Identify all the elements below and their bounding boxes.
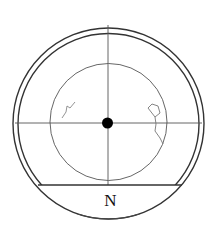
center-dot bbox=[102, 118, 113, 129]
constellation-right bbox=[148, 104, 160, 117]
north-label: N bbox=[104, 191, 116, 210]
sky-chart-diagram: N bbox=[0, 0, 213, 252]
constellation-right-tail bbox=[155, 117, 163, 144]
constellation-left bbox=[62, 102, 75, 118]
